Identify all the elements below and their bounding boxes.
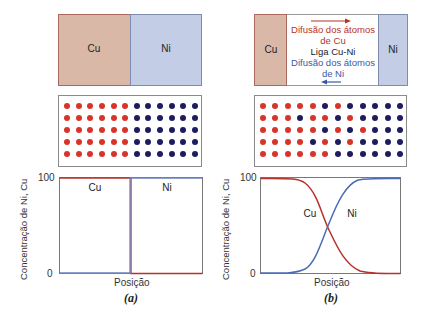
cu-atom [122,151,128,157]
cu-atom [76,115,82,121]
cu-atom [272,127,278,133]
ni-atom [372,151,378,157]
cu-atom [76,103,82,109]
atom-lattice-a [58,95,202,167]
ni-atom [134,103,140,109]
ni-atom [192,115,198,121]
cu-atom [272,151,278,157]
cu-atom [347,115,353,121]
cu-atom [310,127,316,133]
ni-atom [385,103,391,109]
cu-atom [122,127,128,133]
y-tick-0-b: 0 [250,268,256,279]
ni-atom [360,139,366,145]
ni-atom [385,139,391,145]
cu-atom [76,151,82,157]
cu-atom [360,127,366,133]
y-axis-label-b: Concentração de Ni, Cu [220,179,231,280]
ni-atom [192,139,198,145]
cu-atom [122,103,128,109]
ni-atom [157,115,163,121]
cu-atom [64,151,70,157]
cu-atom [122,115,128,121]
cu-atom [322,151,328,157]
cu-diffusion-line2: de Cu [287,35,379,46]
ni-atom [372,127,378,133]
cu-atom [76,139,82,145]
ni-atom [297,115,303,121]
ni-atom [397,139,403,145]
cu-atom [285,115,291,121]
cu-atom [335,127,341,133]
cu-atom [122,139,128,145]
cu-atom [99,139,105,145]
couple-a: Cu Ni [58,14,202,86]
couple-b: Cu Ni Difusão dos átomos de Cu Liga Cu-N… [254,14,407,86]
cu-label-a: Cu [58,43,130,54]
ni-atom [145,103,151,109]
y-axis-label-a: Concentração de Ni, Cu [18,179,29,280]
cu-atom [285,103,291,109]
ni-atom [180,127,186,133]
cu-atom [111,151,117,157]
ni-atom [180,115,186,121]
y-tick-100-b: 100 [240,172,257,183]
ni-atom [134,127,140,133]
cu-atom [87,127,93,133]
cu-atom [310,103,316,109]
cu-atom [272,103,278,109]
cu-atom [64,115,70,121]
ni-atom [169,151,175,157]
cu-atom [322,139,328,145]
ni-atom [145,127,151,133]
ni-atom [169,127,175,133]
ni-atom [192,127,198,133]
arrow-left-icon [321,79,341,85]
ni-atom [385,127,391,133]
cu-atom [297,151,303,157]
cu-atom [111,139,117,145]
ni-atom [134,139,140,145]
ni-atom [360,151,366,157]
cu-atom [285,127,291,133]
cu-atom [99,103,105,109]
ni-atom [310,139,316,145]
cu-atom [111,103,117,109]
cu-label-b: Cu [255,44,287,55]
ni-atom [372,103,378,109]
cu-atom [297,103,303,109]
ni-atom [145,151,151,157]
cu-atom [64,103,70,109]
ni-atom [335,139,341,145]
ni-atom [335,115,341,121]
ni-atom [134,115,140,121]
cu-atom [99,151,105,157]
cu-atom [99,115,105,121]
cu-atom [260,103,266,109]
panel-label-a: (a) [124,291,138,306]
ni-atom [169,103,175,109]
y-tick-0-a: 0 [47,268,53,279]
ni-atom [157,151,163,157]
cu-atom [285,139,291,145]
cu-atom [87,103,93,109]
cu-atom [285,151,291,157]
cu-atom [111,115,117,121]
ni-atom [360,103,366,109]
ni-label-b: Ni [378,44,408,55]
cu-atom [272,115,278,121]
x-axis-label-a: Posição [114,277,150,288]
ni-atom [372,139,378,145]
cu-atom [87,139,93,145]
ni-atom [347,151,353,157]
cu-atom [76,127,82,133]
curve-label-ni-b: Ni [342,208,362,219]
ni-atom [157,103,163,109]
curve-label-cu-a: Cu [80,182,110,193]
curve-label-ni-a: Ni [152,182,182,193]
ni-atom [192,103,198,109]
ni-atom [385,151,391,157]
cu-atom [260,139,266,145]
ni-label-a: Ni [130,43,202,54]
cu-diffusion-line1: Difusão dos átomos [287,24,379,35]
